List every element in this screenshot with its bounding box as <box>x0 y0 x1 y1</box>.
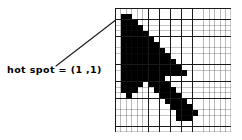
pixel-grid-canvas <box>115 8 231 132</box>
pixel-grid <box>115 8 231 132</box>
hot-spot-cursor-figure: hot spot = (1 ,1) <box>0 0 242 140</box>
hot-spot-label: hot spot = (1 ,1) <box>7 64 102 76</box>
